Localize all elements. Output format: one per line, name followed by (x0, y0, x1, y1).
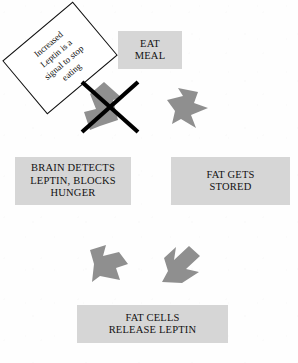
brain-detects-line-1: BRAIN DETECTS (31, 162, 115, 173)
stage-box-fat-gets-stored-text: FAT GETS STORED (171, 169, 290, 194)
stage-box-fat-cells-release-leptin: FAT CELLS RELEASE LEPTIN (77, 305, 228, 343)
stage-box-brain-detects: BRAIN DETECTS LEPTIN, BLOCKS HUNGER (15, 157, 131, 205)
arrow-down-right-icon (164, 86, 214, 136)
fat-cells-line-2: RELEASE LEPTIN (109, 324, 197, 335)
stage-box-eat-meal: EAT MEAL (118, 31, 182, 69)
fat-gets-stored-line-1: FAT GETS (206, 169, 254, 180)
fat-cells-line-1: FAT CELLS (125, 312, 179, 323)
stage-box-fat-cells-release-leptin-text: FAT CELLS RELEASE LEPTIN (77, 312, 228, 337)
arrow-down-left-icon (158, 242, 204, 288)
stage-box-eat-meal-text: EAT MEAL (118, 38, 182, 63)
stage-box-brain-detects-text: BRAIN DETECTS LEPTIN, BLOCKS HUNGER (15, 162, 131, 199)
leptin-cycle-diagram: Increased Leptin is a signal to stop eat… (0, 0, 298, 363)
eat-meal-line-1: EAT (140, 38, 160, 49)
x-cross-icon (78, 78, 142, 136)
arrow-up-left-icon (86, 242, 132, 286)
fat-gets-stored-line-2: STORED (210, 181, 252, 192)
stage-box-fat-gets-stored: FAT GETS STORED (171, 157, 290, 205)
eat-meal-line-2: MEAL (135, 50, 166, 61)
brain-detects-line-3: HUNGER (51, 187, 96, 198)
brain-detects-line-2: LEPTIN, BLOCKS (30, 175, 116, 186)
